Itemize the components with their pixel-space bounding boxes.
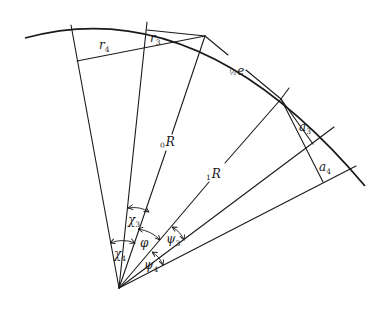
- labels: r4 r3 ½e a3 a4 0R 1R χ3 χ4 φ ψ3 ψ4: [99, 31, 331, 274]
- chord-r4: [77, 36, 205, 61]
- label-phi: φ: [140, 236, 149, 250]
- radial-R0-upper: [172, 36, 205, 134]
- label-a3: a3: [299, 120, 311, 136]
- radial-left: [71, 25, 119, 288]
- label-chi4: χ4: [113, 247, 126, 263]
- label-chi3: χ3: [127, 213, 140, 229]
- segment-a3: [281, 99, 313, 144]
- radial-R1-lower: [119, 182, 209, 288]
- angle-chi4-arc: [110, 241, 135, 244]
- label-R0: 0R: [160, 135, 175, 150]
- label-r4: r4: [99, 38, 110, 54]
- label-psi3: ψ3: [166, 232, 180, 248]
- label-R1: 1R: [206, 167, 221, 182]
- radial-R1-ext: [281, 88, 289, 99]
- label-half-e: ½e: [229, 64, 244, 78]
- diagram-canvas: r4 r3 ½e a3 a4 0R 1R χ3 χ4 φ ψ3 ψ4: [0, 0, 386, 309]
- chord-half-e-upper: [205, 36, 228, 55]
- chord-half-e-lower: [246, 70, 281, 99]
- sector-diagram: r4 r3 ½e a3 a4 0R 1R χ3 χ4 φ ψ3 ψ4: [0, 0, 386, 309]
- label-r3: r3: [150, 31, 161, 47]
- radial-R1-upper: [225, 99, 281, 163]
- label-a4: a4: [319, 160, 331, 176]
